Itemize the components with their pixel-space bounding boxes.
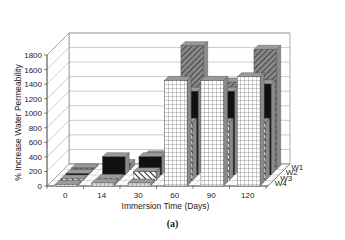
x-tick-label: 30 [134, 191, 143, 200]
svg-text:1800: 1800 [24, 51, 42, 60]
x-tick-label: 14 [97, 191, 106, 200]
svg-text:0: 0 [38, 182, 43, 191]
svg-text:600: 600 [29, 138, 43, 147]
figure-caption: (a) [0, 218, 345, 229]
svg-text:200: 200 [29, 167, 43, 176]
bar-W4-90 [201, 76, 228, 186]
series-label: W4 [275, 179, 288, 188]
bar-W2-14 [102, 153, 129, 175]
svg-text:1000: 1000 [24, 109, 42, 118]
y-axis-title: % Increase Water Permeability [13, 64, 23, 181]
bar-W4-14 [91, 179, 118, 186]
x-tick-label: 120 [241, 191, 255, 200]
bar-W4-120 [237, 73, 264, 186]
x-tick-label: 60 [170, 191, 179, 200]
bar-W2-0 [66, 169, 93, 175]
3d-bar-chart: 0200400600800100012001400160018000143060… [0, 0, 345, 240]
bar-W4-30 [128, 179, 155, 186]
svg-text:400: 400 [29, 153, 43, 162]
x-axis-title: Immersion Time (Days) [122, 201, 210, 211]
svg-text:1200: 1200 [24, 95, 42, 104]
x-tick-label: 0 [63, 191, 68, 200]
bar-W3-30 [133, 168, 160, 181]
bar-W4-60 [164, 76, 191, 186]
svg-text:1600: 1600 [24, 66, 42, 75]
bar-W3-0 [60, 175, 87, 181]
svg-text:1400: 1400 [24, 80, 42, 89]
bar-W1-0 [71, 164, 98, 170]
x-tick-label: 90 [207, 191, 216, 200]
bar-W4-0 [55, 180, 82, 186]
svg-text:800: 800 [29, 124, 43, 133]
